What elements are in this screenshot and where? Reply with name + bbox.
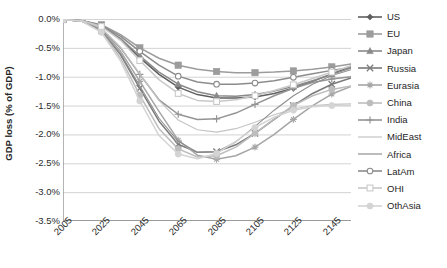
data-point-marker xyxy=(329,69,335,75)
series-line xyxy=(63,20,351,98)
data-point-marker xyxy=(137,58,143,64)
series-line xyxy=(63,20,351,97)
data-point-marker xyxy=(213,115,220,122)
legend-label: US xyxy=(383,11,400,22)
data-point-marker xyxy=(366,116,373,123)
data-point-marker xyxy=(367,186,373,192)
data-point-marker xyxy=(214,150,220,156)
data-point-marker xyxy=(291,82,297,88)
data-point-marker xyxy=(252,69,258,75)
legend-item-eurasia[interactable]: Eurasia xyxy=(357,77,447,94)
plot-svg xyxy=(63,19,351,221)
legend-item-us[interactable]: US xyxy=(357,8,447,25)
legend-key-star-icon xyxy=(357,78,383,92)
data-point-marker xyxy=(252,93,258,99)
legend-label: Russia xyxy=(383,63,416,74)
legend-item-china[interactable]: China xyxy=(357,94,447,111)
legend-item-eu[interactable]: EU xyxy=(357,25,447,42)
legend-label: Japan xyxy=(383,45,413,56)
y-axis-tick-labels: 0.0%-0.5%-1.0%-1.5%-2.0%-2.5%-3.0%-3.5% xyxy=(14,0,60,268)
legend: USEUJapanRussiaEurasiaChinaIndiaMidEastA… xyxy=(357,8,447,214)
legend-label: China xyxy=(383,97,412,108)
data-point-marker xyxy=(329,102,335,108)
data-point-marker xyxy=(175,73,181,79)
legend-item-india[interactable]: India xyxy=(357,111,447,128)
plot-area xyxy=(63,19,351,221)
legend-key-line-icon xyxy=(357,147,383,161)
data-point-marker xyxy=(290,116,297,123)
data-point-marker xyxy=(252,130,258,136)
data-point-marker xyxy=(290,68,296,74)
legend-label: India xyxy=(383,114,408,125)
legend-item-mideast[interactable]: MidEast xyxy=(357,128,447,145)
legend-item-russia[interactable]: Russia xyxy=(357,60,447,77)
series-japan xyxy=(63,19,351,98)
data-point-marker xyxy=(291,74,297,80)
legend-label: OHI xyxy=(383,183,404,194)
legend-key-triangle-icon xyxy=(357,44,383,58)
data-point-marker xyxy=(214,81,220,87)
gdp-loss-chart: GDP loss (% of GDP) 0.0%-0.5%-1.0%-1.5%-… xyxy=(0,0,447,268)
data-point-marker xyxy=(367,31,373,37)
data-point-marker xyxy=(175,81,182,87)
legend-key-circle-filled-icon xyxy=(357,96,383,110)
legend-key-line-icon xyxy=(357,130,383,144)
series-line xyxy=(63,20,351,102)
data-point-marker xyxy=(367,203,373,209)
data-point-marker xyxy=(252,124,258,130)
legend-item-japan[interactable]: Japan xyxy=(357,42,447,59)
y-tick-label: -3.0% xyxy=(20,187,60,197)
data-point-marker xyxy=(252,144,259,151)
legend-key-diamond-icon xyxy=(357,10,383,24)
y-tick-label: 0.0% xyxy=(20,14,60,24)
legend-key-circle-light-icon xyxy=(357,199,383,213)
legend-label: Eurasia xyxy=(383,80,419,91)
legend-label: OthAsia xyxy=(383,200,421,211)
data-point-marker xyxy=(175,151,181,157)
data-point-marker xyxy=(99,24,105,30)
data-point-marker xyxy=(98,29,104,35)
data-point-marker xyxy=(175,91,181,97)
data-point-marker xyxy=(137,98,143,104)
legend-item-africa[interactable]: Africa xyxy=(357,146,447,163)
data-point-marker xyxy=(329,86,335,92)
data-point-marker xyxy=(175,62,181,68)
series-line xyxy=(63,20,351,159)
data-point-marker xyxy=(214,99,220,105)
legend-key-circle-open-icon xyxy=(357,164,383,178)
data-point-marker xyxy=(213,68,219,74)
legend-key-x-icon xyxy=(357,61,383,75)
y-tick-label: -1.0% xyxy=(20,72,60,82)
series-othasia xyxy=(63,19,351,159)
legend-label: MidEast xyxy=(383,131,421,142)
series-ohi xyxy=(63,19,351,104)
legend-key-square-open-icon xyxy=(357,181,383,195)
y-tick-label: -3.5% xyxy=(20,216,60,226)
data-point-marker xyxy=(290,107,296,113)
y-tick-label: -2.0% xyxy=(20,129,60,139)
data-point-marker xyxy=(367,99,373,105)
legend-item-latam[interactable]: LatAm xyxy=(357,163,447,180)
y-tick-label: -2.5% xyxy=(20,158,60,168)
y-tick-label: -1.5% xyxy=(20,101,60,111)
y-tick-label: -0.5% xyxy=(20,43,60,53)
data-point-marker xyxy=(252,80,258,86)
legend-item-othasia[interactable]: OthAsia xyxy=(357,197,447,214)
series-us xyxy=(63,19,351,101)
y-axis-title-text: GDP loss (% of GDP) xyxy=(3,66,14,160)
legend-item-ohi[interactable]: OHI xyxy=(357,180,447,197)
data-point-marker xyxy=(367,168,373,174)
data-point-marker xyxy=(251,101,258,108)
legend-key-plus-icon xyxy=(357,113,383,127)
legend-label: LatAm xyxy=(383,166,414,177)
legend-label: Africa xyxy=(383,149,411,160)
legend-key-square-icon xyxy=(357,27,383,41)
data-point-marker xyxy=(367,82,374,89)
data-point-marker xyxy=(367,13,373,19)
data-point-marker xyxy=(137,49,143,55)
legend-label: EU xyxy=(383,28,400,39)
